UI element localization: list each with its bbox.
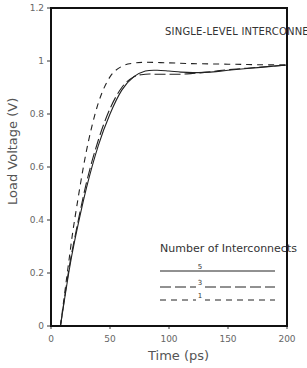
y-tick-label: 1.2 [30, 3, 44, 13]
y-tick-label: 0.6 [30, 162, 45, 172]
data-series [60, 62, 287, 326]
line-chart: 05010015020000.20.40.60.811.2 SINGLE-LEV… [0, 0, 307, 368]
y-tick-label: 1 [38, 56, 44, 66]
legend: Number of Interconnects 531 [160, 242, 297, 301]
x-axis-label: Time (ps) [147, 348, 209, 363]
x-tick-label: 150 [219, 334, 236, 344]
y-tick-label: 0.8 [30, 109, 45, 119]
plot-frame [51, 8, 287, 326]
x-tick-label: 0 [48, 334, 54, 344]
y-tick-label: 0.2 [30, 268, 44, 278]
legend-label: 3 [198, 279, 202, 287]
x-tick-label: 200 [278, 334, 295, 344]
y-tick-label: 0 [38, 321, 44, 331]
legend-label: 5 [198, 263, 202, 271]
legend-label: 1 [198, 292, 202, 300]
y-tick-label: 0.4 [30, 215, 45, 225]
legend-title: Number of Interconnects [160, 242, 297, 255]
series-line-1 [60, 62, 287, 326]
plot-title: SINGLE-LEVEL INTERCONNECTIONS [165, 26, 307, 37]
x-tick-label: 50 [104, 334, 116, 344]
x-tick-label: 100 [160, 334, 177, 344]
y-axis-label: Load Voltage (V) [5, 98, 20, 205]
axis-ticks: 05010015020000.20.40.60.811.2 [30, 3, 296, 344]
